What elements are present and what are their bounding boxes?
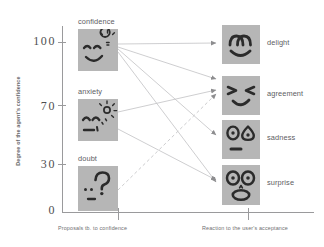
anxious-face-with-sweat-icon [78, 99, 118, 141]
link-anxiety-surprise [118, 129, 216, 180]
doubting-face-with-question-mark-icon [78, 166, 118, 211]
emotion-mapping-diagram: 100 70 30 0 Degree of the agent's confid… [0, 0, 324, 247]
surprised-face-icon [222, 165, 260, 205]
node-label-agreement: agreement [267, 89, 303, 98]
node-label-delight: delight [267, 38, 289, 47]
link-confidence-sadness [118, 49, 216, 135]
link-confidence-agreement [118, 47, 216, 79]
link-confidence-surprise [118, 52, 216, 182]
sad-face-icon [222, 120, 260, 159]
link-confidence-delight [118, 43, 216, 44]
delighted-face-icon [222, 25, 260, 64]
confident-face-with-lightbulb-icon [78, 29, 118, 71]
node-label-anxiety: anxiety [78, 87, 102, 96]
node-label-surprise: surprise [267, 178, 294, 187]
node-label-sadness: sadness [267, 133, 295, 142]
node-label-confidence: confidence [78, 17, 115, 26]
agreeing-face-icon [222, 76, 260, 115]
node-label-doubt: doubt [78, 154, 97, 163]
